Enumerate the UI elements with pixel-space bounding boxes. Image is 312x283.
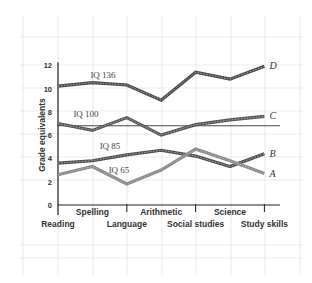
- y-tick-label: 8: [48, 108, 52, 117]
- x-category-label: Science: [214, 207, 246, 217]
- y-tick-label: 2: [48, 178, 52, 187]
- x-category-label: Spelling: [76, 207, 109, 217]
- series-lines: [58, 66, 264, 184]
- series-letter-b: B: [269, 148, 275, 159]
- x-category-label: Reading: [41, 219, 75, 229]
- y-tick-label: 6: [48, 131, 52, 140]
- x-category-label: Study skills: [241, 219, 289, 229]
- series-line-b: [58, 150, 264, 166]
- x-category-label: Language: [107, 219, 147, 229]
- series-letter-d: D: [268, 60, 277, 71]
- iq-label-a: IQ 65: [109, 165, 130, 175]
- iq-label-c: IQ 100: [73, 109, 99, 119]
- y-tick-label: 4: [48, 154, 53, 163]
- y-tick-label: 0: [48, 201, 52, 210]
- series-line-texture: [58, 66, 264, 100]
- iq-label-b: IQ 85: [100, 141, 121, 151]
- iq-label-d: IQ 136: [90, 70, 116, 80]
- background-grid: [20, 16, 303, 275]
- x-category-label: Arithmetic: [140, 207, 182, 217]
- grade-equivalents-chart: 024681012 ReadingSpellingLanguageArithme…: [0, 0, 312, 283]
- y-tick-label: 10: [44, 85, 52, 94]
- y-axis-title: Grade equivalents: [37, 98, 47, 172]
- series-letter-c: C: [269, 110, 276, 121]
- x-category-label: Social studies: [167, 219, 224, 229]
- x-axis: ReadingSpellingLanguageArithmeticSocial …: [41, 204, 288, 229]
- series-letter-a: A: [268, 168, 276, 179]
- y-tick-label: 12: [44, 61, 52, 70]
